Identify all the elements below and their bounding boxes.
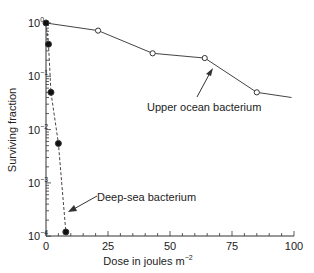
- x-axis-label: Dose in joules m−2: [103, 254, 192, 267]
- y-axis-label: Surviving fraction: [6, 88, 18, 172]
- x-tick-labels: 0255075100: [43, 240, 303, 252]
- upper-arrowhead-icon: [206, 68, 213, 76]
- svg-text:100: 100: [28, 16, 44, 29]
- svg-text:25: 25: [102, 240, 114, 252]
- chart-svg: 10010−110−210−310−4 0255075100 Surviving…: [0, 0, 314, 273]
- svg-text:10−2: 10−2: [28, 123, 48, 136]
- svg-text:50: 50: [164, 240, 176, 252]
- svg-text:0: 0: [43, 240, 49, 252]
- svg-text:75: 75: [226, 240, 238, 252]
- deep-arrow: [72, 196, 97, 210]
- upper-ocean-label: Upper ocean bacterium: [147, 101, 261, 113]
- y-tick-labels: 10010−110−210−310−4: [28, 16, 48, 242]
- svg-text:100: 100: [285, 240, 303, 252]
- deep-sea-label: Deep-sea bacterium: [97, 191, 196, 203]
- deep-arrowhead-icon: [68, 205, 77, 212]
- svg-text:10−1: 10−1: [28, 69, 48, 82]
- svg-text:10−3: 10−3: [28, 176, 48, 189]
- chart: 10010−110−210−310−4 0255075100 Surviving…: [0, 0, 314, 273]
